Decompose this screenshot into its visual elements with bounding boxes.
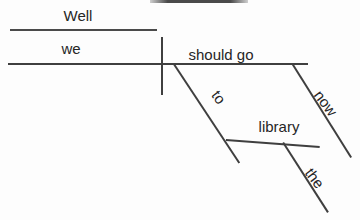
preposition-line xyxy=(173,64,240,164)
interjection-word: Well xyxy=(64,8,93,23)
verb-phrase-word: should go xyxy=(188,47,253,62)
object-line xyxy=(226,139,320,148)
article-word: the xyxy=(303,165,328,191)
preposition-word: to xyxy=(209,87,229,106)
subject-word: we xyxy=(61,41,80,56)
object-word: library xyxy=(259,119,300,134)
cropped-top-line xyxy=(150,0,248,3)
adverb-word: now xyxy=(312,87,341,118)
interjection-line xyxy=(10,29,157,31)
sentence-diagram: Well we should go to library the now xyxy=(0,0,360,220)
base-line xyxy=(8,63,308,65)
subject-verb-divider xyxy=(161,37,163,95)
